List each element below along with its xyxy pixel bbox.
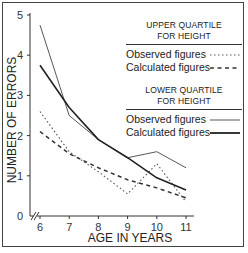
legend-label: Calculated figures xyxy=(126,61,210,73)
legend-entry-lower-observed: Observed figures xyxy=(126,113,242,126)
thick-line-swatch-icon xyxy=(210,131,240,135)
legend-heading-upper-line2: FOR HEIGHT xyxy=(126,31,242,42)
legend-entry-upper-observed: Observed figures xyxy=(126,48,242,61)
legend-group-upper-quartile: UPPER QUARTILE FOR HEIGHT Observed figur… xyxy=(126,20,242,74)
legend-divider xyxy=(126,44,242,45)
x-tick-label: 11 xyxy=(180,221,191,233)
y-tick-label: 5 xyxy=(17,9,23,21)
legend-entry-upper-calculated: Calculated figures xyxy=(126,61,242,74)
y-axis-title: NUMBER OF ERRORS xyxy=(5,57,19,184)
x-axis-title: AGE IN YEARS xyxy=(88,231,172,245)
legend-heading-lower-line2: FOR HEIGHT xyxy=(126,96,242,107)
x-tick-label: 7 xyxy=(66,221,72,233)
legend-label: Observed figures xyxy=(126,113,206,125)
thin-line-swatch-icon xyxy=(210,118,240,122)
dashed-line-swatch-icon xyxy=(210,66,240,70)
dotted-line-swatch-icon xyxy=(210,53,240,57)
legend-label: Observed figures xyxy=(126,48,206,60)
legend-group-lower-quartile: LOWER QUARTILE FOR HEIGHT Observed figur… xyxy=(126,85,242,139)
legend-label: Calculated figures xyxy=(126,126,210,138)
legend-heading-upper-line1: UPPER QUARTILE xyxy=(126,20,242,31)
legend-divider xyxy=(126,109,242,110)
legend-entry-lower-calculated: Calculated figures xyxy=(126,126,242,139)
legend-heading-lower-line1: LOWER QUARTILE xyxy=(126,85,242,96)
x-tick-label: 6 xyxy=(37,221,43,233)
y-tick-label: 0 xyxy=(17,210,23,222)
legend: UPPER QUARTILE FOR HEIGHT Observed figur… xyxy=(126,20,242,150)
